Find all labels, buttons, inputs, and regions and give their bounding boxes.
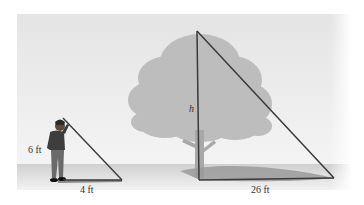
person-shadow-label: 4 ft xyxy=(80,184,94,195)
tree-height-label: h xyxy=(189,103,194,114)
person-height-label: 6 ft xyxy=(28,144,42,155)
tree-shadow-label: 26 ft xyxy=(251,184,270,195)
similar-triangles-diagram xyxy=(0,0,364,205)
